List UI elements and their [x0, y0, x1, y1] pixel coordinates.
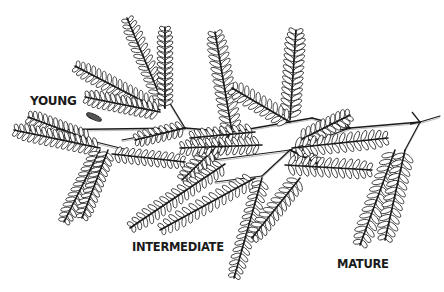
young-bud — [86, 111, 103, 122]
pinna — [279, 27, 306, 120]
stem-segment — [405, 122, 420, 150]
pinna — [206, 29, 242, 132]
stem-segment — [350, 122, 420, 128]
pinna — [285, 155, 374, 180]
label-intermediate: INTERMEDIATE — [132, 240, 224, 254]
label-young: YOUNG — [30, 94, 77, 108]
stem-outline — [405, 124, 420, 152]
stem-segment — [420, 116, 440, 122]
pinna — [156, 25, 174, 108]
label-mature: MATURE — [337, 257, 389, 271]
pinna — [132, 121, 185, 147]
stem-segment — [262, 150, 290, 176]
